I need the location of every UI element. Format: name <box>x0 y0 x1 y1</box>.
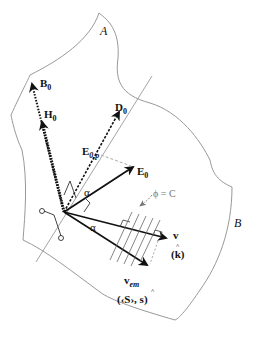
right-angle-mark-1 <box>64 181 76 198</box>
vector-v <box>64 212 166 238</box>
projection-line <box>101 155 131 166</box>
region-B-label: B <box>234 216 242 230</box>
label-S: (‹S›, s) <box>117 293 148 306</box>
vector-H0 <box>42 122 64 212</box>
vector-D0 <box>64 112 119 212</box>
vector-E0 <box>64 167 133 212</box>
label-vem: vem <box>124 274 139 289</box>
angle-alpha-1: α <box>84 186 90 198</box>
label-k: (k) <box>171 248 185 261</box>
phase-surface-label: ϕ = C <box>153 188 176 199</box>
vem-dashed <box>150 241 158 264</box>
label-E0: E0 <box>137 165 148 180</box>
region-A-label: A <box>99 24 108 38</box>
label-H0: H0 <box>44 108 57 123</box>
label-D0: D0 <box>115 101 127 116</box>
surface-boundary <box>11 13 232 320</box>
label-E0p: E0,p <box>82 145 99 160</box>
label-v: v <box>173 229 179 241</box>
phase-pointer <box>140 195 152 206</box>
angle-alpha-2: α <box>90 221 96 233</box>
label-B0: B0 <box>40 77 51 92</box>
vector-vem <box>64 212 147 265</box>
diagram-canvas: A B B0 H0 D0 E0,p E0 α α ϕ = C v ^ (k) v… <box>0 0 261 342</box>
right-angle-mark-2 <box>84 198 90 212</box>
hat-s: ^ <box>151 287 155 295</box>
